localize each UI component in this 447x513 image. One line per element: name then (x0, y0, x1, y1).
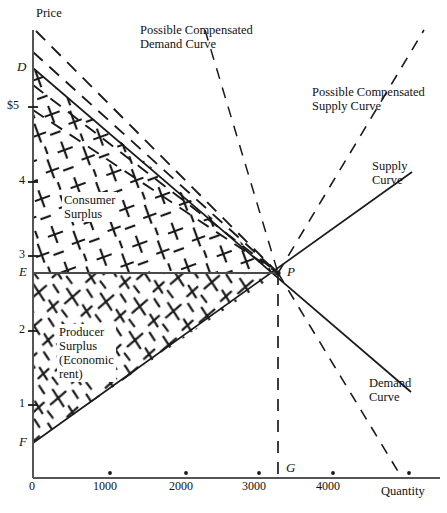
x-tick-label-1000: 1000 (93, 480, 117, 493)
y-tick-label-2: 2 (19, 323, 25, 336)
possible-compensated-demand-curve-label: Possible Compensated Demand Curve (140, 23, 253, 51)
point-label-p: P (287, 265, 295, 280)
x-axis-ticks (108, 471, 411, 475)
producer-surplus-label: Producer Surplus (Economic rent) (57, 324, 116, 382)
surplus-diagram: Price Quantity $5 4 3 2 1 0 1000 2000 30… (0, 0, 447, 513)
x-tick-label-4000: 4000 (316, 480, 340, 493)
x-tick-label-2000: 2000 (169, 480, 193, 493)
point-label-e: E (19, 265, 27, 280)
y-tick-label-1: 1 (19, 397, 25, 410)
y-tick-label-3: 3 (19, 248, 25, 261)
demand-curve-label: Demand Curve (369, 376, 411, 404)
point-label-g: G (286, 461, 295, 476)
x-axis-title: Quantity (381, 484, 425, 498)
compensated-supply-curve-upper (278, 30, 424, 273)
point-label-f: F (19, 435, 27, 450)
y-axis-title: Price (36, 6, 62, 20)
x-tick-label-3000: 3000 (242, 480, 266, 493)
equilibrium-point-marker (275, 270, 280, 275)
point-label-d: D (17, 60, 26, 75)
supply-curve-label: Supply Curve (372, 159, 407, 187)
y-tick-label-4: 4 (19, 174, 25, 187)
x-tick-label-0: 0 (29, 480, 35, 493)
y-tick-label-5: $5 (7, 99, 19, 112)
possible-compensated-supply-curve-label: Possible Compensated Supply Curve (312, 85, 425, 113)
consumer-surplus-label: Consumer Surplus (62, 192, 117, 222)
diagram-canvas (0, 0, 447, 513)
